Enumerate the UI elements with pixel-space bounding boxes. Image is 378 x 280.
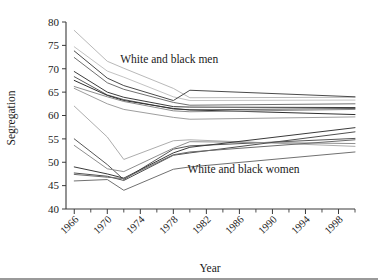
- y-tick-label: 40: [48, 203, 60, 215]
- chart-figure: 404550556065707580 196619701974197819821…: [0, 0, 378, 280]
- y-tick-label: 60: [48, 109, 60, 121]
- y-tick-label: 50: [48, 156, 60, 168]
- y-tick-labels: 404550556065707580: [48, 16, 60, 215]
- annotation-men: White and black men: [120, 53, 218, 65]
- y-tick-label: 75: [48, 39, 60, 51]
- x-axis-title: Year: [199, 262, 220, 274]
- y-tick-label: 45: [48, 179, 60, 191]
- y-axis-title: Segregation: [5, 90, 18, 145]
- y-tick-label: 55: [48, 133, 60, 145]
- y-tick-label: 70: [48, 63, 60, 75]
- segregation-line-chart: 404550556065707580 196619701974197819821…: [0, 0, 378, 280]
- y-tick-label: 80: [48, 16, 60, 28]
- annotation-women: White and black women: [187, 163, 299, 175]
- y-tick-label: 65: [48, 86, 60, 98]
